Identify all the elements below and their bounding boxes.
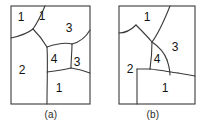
region-label-3-right: 3	[74, 55, 81, 69]
figure-root: 1 1 3 4 3 2 1 (a)	[0, 0, 204, 131]
panel-b-canvas: 1 3 4 2 1	[102, 0, 204, 110]
region-label-1-bottom: 1	[56, 81, 63, 95]
region-label-4-center: 4	[154, 52, 161, 66]
panel-a-canvas: 1 1 3 4 3 2 1	[0, 0, 102, 110]
panel-a-caption: (a)	[0, 108, 102, 122]
region-label-4-center: 4	[51, 52, 58, 66]
region-label-1-topleft: 1	[18, 10, 25, 24]
panel-a-diagram: 1 1 3 4 3 2 1	[0, 0, 102, 110]
region-label-2-left: 2	[19, 63, 26, 77]
region-label-3-right: 3	[172, 40, 179, 54]
region-label-3-topright: 3	[66, 21, 73, 35]
figure-panel-b: 1 3 4 2 1 (b)	[102, 0, 204, 131]
figure-panel-a: 1 1 3 4 3 2 1 (a)	[0, 0, 102, 131]
region-label-2-left: 2	[127, 62, 134, 76]
region-label-1-topmid: 1	[39, 9, 46, 23]
panel-b-caption: (b)	[102, 108, 204, 122]
panel-b-diagram: 1 3 4 2 1	[102, 0, 204, 110]
region-label-1-bottom: 1	[162, 81, 169, 95]
region-label-1-top: 1	[144, 10, 151, 24]
